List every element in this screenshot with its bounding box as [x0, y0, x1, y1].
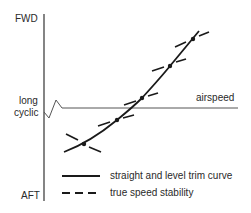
label-fwd: FWD — [15, 13, 38, 24]
legend-solid-label: straight and level trim curve — [110, 170, 233, 181]
trim-curve-diagram: FWD long cyclic AFT airspeed straight an… — [0, 0, 251, 213]
stability-marker-2 — [98, 115, 134, 126]
label-cyclic: cyclic — [14, 107, 38, 118]
stability-marker-4 — [152, 59, 186, 71]
stability-marker-5 — [175, 32, 209, 47]
label-aft: AFT — [21, 190, 40, 201]
label-airspeed: airspeed — [196, 92, 234, 103]
stability-marker-3 — [124, 93, 158, 105]
trim-curve — [64, 31, 199, 152]
label-long: long — [19, 95, 38, 106]
legend: straight and level trim curve true speed… — [62, 170, 233, 198]
legend-dashed-label: true speed stability — [110, 187, 193, 198]
